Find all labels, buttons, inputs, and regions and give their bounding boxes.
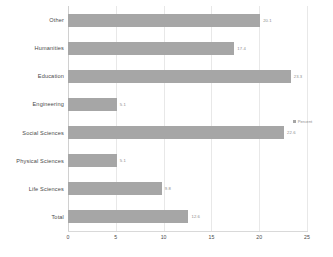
bar [68, 42, 234, 55]
plot-area: 20.117.423.35.122.65.19.812.6 [68, 6, 307, 231]
x-axis-tick-labels: 0510152025 [68, 234, 307, 248]
x-axis-line [68, 231, 308, 232]
category-label: Life Sciences [29, 175, 64, 203]
bar-row: 9.8 [68, 175, 307, 203]
y-axis-category-labels: OtherHumanitiesEducationEngineeringSocia… [0, 6, 64, 231]
bar-row: 5.1 [68, 147, 307, 175]
bar [68, 98, 117, 111]
bar-value-label: 20.1 [263, 18, 272, 23]
bar [68, 14, 260, 27]
bar [68, 126, 284, 139]
x-tick-label-10: 10 [161, 234, 167, 240]
chart-legend: Percent [293, 119, 312, 124]
bar [68, 154, 117, 167]
x-tick-label-25: 25 [304, 234, 310, 240]
bar-row: 22.6 [68, 119, 307, 147]
x-tick-label-20: 20 [256, 234, 262, 240]
x-tick-label-0: 0 [67, 234, 70, 240]
x-tick-label-5: 5 [114, 234, 117, 240]
legend-swatch-percent [293, 120, 296, 123]
category-label: Social Sciences [22, 119, 64, 147]
category-label: Other [49, 6, 64, 34]
bar-row: 17.4 [68, 34, 307, 62]
bar-series-percent: 20.117.423.35.122.65.19.812.6 [68, 6, 307, 231]
bar-row: 5.1 [68, 90, 307, 118]
bar [68, 210, 188, 223]
bar-value-label: 12.6 [191, 214, 200, 219]
bar [68, 182, 162, 195]
bar-chart: OtherHumanitiesEducationEngineeringSocia… [0, 0, 333, 257]
bar-value-label: 22.6 [287, 130, 296, 135]
bar-value-label: 5.1 [120, 102, 126, 107]
legend-label-percent: Percent [298, 119, 312, 124]
x-tick-label-15: 15 [209, 234, 215, 240]
bar-value-label: 5.1 [120, 158, 126, 163]
bar-row: 20.1 [68, 6, 307, 34]
category-label: Education [38, 62, 64, 90]
category-label: Physical Sciences [16, 147, 64, 175]
bar-value-label: 17.4 [237, 46, 246, 51]
bar-value-label: 23.3 [294, 74, 303, 79]
category-label: Humanities [35, 34, 64, 62]
bar-row: 23.3 [68, 62, 307, 90]
category-label: Engineering [32, 90, 64, 118]
category-label: Total [51, 203, 64, 231]
bar-value-label: 9.8 [165, 186, 171, 191]
bar-row: 12.6 [68, 203, 307, 231]
bar [68, 70, 291, 83]
